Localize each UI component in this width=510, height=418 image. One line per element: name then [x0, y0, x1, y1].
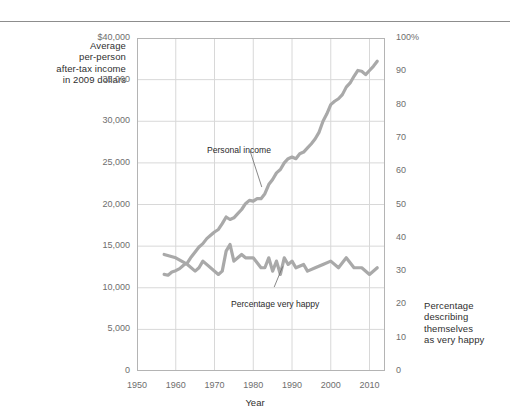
ticks-left-label: 25,000: [58, 157, 130, 167]
ticks-left-label: $40,000: [58, 32, 130, 42]
ticks-left-label: 5,000: [58, 323, 130, 333]
ticks-right-label: 40: [396, 232, 436, 242]
right-axis-caption-line-2: themselves: [424, 323, 510, 334]
annotation-personal-income: Personal income: [207, 145, 271, 155]
x-axis-tick-label: 1970: [195, 380, 235, 390]
x-axis-title: Year: [0, 397, 510, 408]
series-layer: [164, 61, 377, 275]
leader-line-income: [250, 151, 262, 187]
gridlines: [137, 38, 385, 371]
ticks-right-label: 0: [396, 365, 436, 375]
x-axis-tick-label: 1990: [272, 380, 312, 390]
ticks-left-label: 35,000: [58, 74, 130, 84]
ticks-left-label: 0: [58, 365, 130, 375]
right-axis-caption-line-0: Percentage: [424, 300, 510, 311]
x-axis-tick-label: 1960: [156, 380, 196, 390]
ticks-right-label: 80: [396, 99, 436, 109]
chart-figure: Averageper-personafter-tax incomein 2009…: [0, 0, 510, 418]
x-axis-tick-label: 2010: [350, 380, 390, 390]
ticks-right-label: 60: [396, 165, 436, 175]
right-axis-caption: Percentagedescribingthemselvesas very ha…: [424, 300, 510, 346]
ticks-right-label: 90: [396, 65, 436, 75]
ticks-right-label: 50: [396, 199, 436, 209]
x-axis-tick-label: 1980: [233, 380, 273, 390]
plot-svg: [137, 38, 385, 371]
x-axis-tick-label: 1950: [117, 380, 157, 390]
ticks-left-label: 15,000: [58, 240, 130, 250]
x-axis-tick-label: 2000: [311, 380, 351, 390]
right-axis-caption-line-3: as very happy: [424, 334, 510, 345]
ticks-left-label: 10,000: [58, 282, 130, 292]
ticks-right-label: 30: [396, 265, 436, 275]
plot-area: [137, 38, 385, 371]
right-axis-caption-line-1: describing: [424, 311, 510, 322]
ticks-left-label: 20,000: [58, 199, 130, 209]
ticks-right-label: 70: [396, 132, 436, 142]
annotation-percentage-very-happy: Percentage very happy: [231, 299, 319, 309]
ticks-left-label: 30,000: [58, 115, 130, 125]
ticks-right-label: 100%: [396, 32, 436, 42]
series-line-personal-income: [164, 61, 377, 275]
ticks-right-label: 10: [396, 332, 436, 342]
left-axis-caption-line-2: after-tax income: [6, 63, 126, 74]
ticks-right-label: 20: [396, 298, 436, 308]
left-axis-caption-line-1: per-person: [6, 51, 126, 62]
top-divider-rule: [0, 21, 510, 22]
